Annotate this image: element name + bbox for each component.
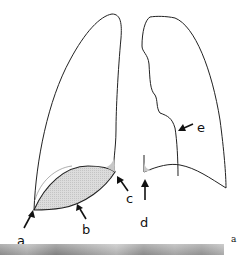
label-c: c (126, 191, 133, 206)
right-lung-apex (150, 16, 226, 188)
right-lung-medial-contour (142, 17, 178, 176)
right-diaphragm (144, 164, 226, 188)
chest-xray-strip (0, 244, 224, 255)
lung-diagram: a b c d e a (0, 0, 240, 255)
arrow-c-icon (117, 176, 128, 191)
arrow-e-icon (178, 124, 193, 131)
label-d: d (140, 215, 148, 230)
structure-d-shading (144, 162, 152, 172)
label-b: b (82, 222, 90, 237)
arrow-b-icon (76, 204, 86, 219)
panel-label: a (231, 234, 237, 244)
label-e: e (197, 120, 205, 135)
arrow-a-icon (24, 210, 35, 228)
arrow-d-icon (141, 179, 149, 200)
shaded-lens-region-b (34, 166, 115, 210)
